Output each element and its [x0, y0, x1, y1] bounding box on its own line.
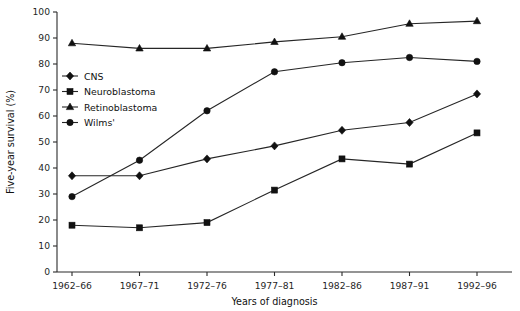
- y-tick-labels: 0102030405060708090100: [32, 6, 50, 277]
- y-tick-label: 20: [38, 214, 50, 225]
- legend-marker-circle-icon: [67, 119, 73, 125]
- legend-label: Neuroblastoma: [84, 86, 156, 97]
- y-tick-label: 60: [38, 110, 50, 121]
- x-tick-labels: 1962–661967–711972–761977–811982–861987–…: [52, 280, 497, 291]
- data-point: [272, 187, 278, 193]
- y-tick-label: 50: [38, 136, 50, 147]
- data-point: [473, 90, 480, 98]
- y-axis-title: Five-year survival (%): [5, 90, 16, 194]
- chart-container: 0102030405060708090100 1962–661967–71197…: [0, 0, 520, 311]
- series-retinoblastoma: [68, 17, 480, 51]
- legend-label: Wilms': [84, 117, 115, 128]
- data-point: [68, 39, 75, 46]
- legend-marker-diamond-icon: [66, 72, 73, 80]
- legend-item-retinoblastoma: Retinoblastoma: [62, 102, 157, 113]
- legend-item-wilms: Wilms': [62, 117, 115, 128]
- x-tick-label: 1977–81: [255, 280, 295, 291]
- x-tick-label: 1982–86: [322, 280, 362, 291]
- data-point: [69, 222, 75, 228]
- data-point: [407, 161, 413, 167]
- y-tick-label: 100: [32, 6, 50, 17]
- x-tick-label: 1987–91: [390, 280, 430, 291]
- data-point: [204, 108, 210, 114]
- legend-marker-square-icon: [67, 89, 73, 95]
- data-point: [136, 157, 142, 163]
- x-tick-label: 1962–66: [52, 280, 92, 291]
- x-tick-label: 1967–71: [120, 280, 160, 291]
- series-wilms: [69, 54, 480, 200]
- legend-item-cns: CNS: [62, 71, 104, 82]
- data-point: [474, 130, 480, 136]
- y-tick-label: 40: [38, 162, 50, 173]
- x-tick-label: 1992–96: [457, 280, 497, 291]
- legend-item-neuroblastoma: Neuroblastoma: [62, 86, 156, 97]
- data-point: [136, 172, 143, 180]
- data-point: [338, 126, 345, 134]
- data-point: [271, 69, 277, 75]
- data-point: [474, 58, 480, 64]
- y-tick-label: 0: [44, 266, 50, 277]
- y-tick-label: 90: [38, 32, 50, 43]
- legend-label: Retinoblastoma: [84, 102, 157, 113]
- data-point: [406, 119, 413, 127]
- data-point: [204, 220, 210, 226]
- data-series-group: [68, 17, 480, 231]
- data-point: [203, 155, 210, 163]
- data-point: [69, 193, 75, 199]
- legend-label: CNS: [84, 71, 104, 82]
- x-axis-title: Years of diagnosis: [231, 296, 318, 307]
- x-tick-label: 1972–76: [187, 280, 227, 291]
- axis-titles: Five-year survival (%)Years of diagnosis: [5, 90, 318, 307]
- data-point: [137, 225, 143, 231]
- data-point: [339, 60, 345, 66]
- y-tick-label: 80: [38, 58, 50, 69]
- y-tick-label: 30: [38, 188, 50, 199]
- chart-legend: CNSNeuroblastomaRetinoblastomaWilms': [62, 71, 157, 129]
- y-tick-label: 70: [38, 84, 50, 95]
- data-point: [473, 17, 480, 24]
- legend-marker-triangle-icon: [66, 103, 73, 110]
- data-point: [406, 54, 412, 60]
- data-point: [339, 156, 345, 162]
- data-point: [271, 142, 278, 150]
- survival-line-chart: 0102030405060708090100 1962–661967–71197…: [0, 0, 520, 311]
- y-tick-label: 10: [38, 240, 50, 251]
- data-point: [68, 172, 75, 180]
